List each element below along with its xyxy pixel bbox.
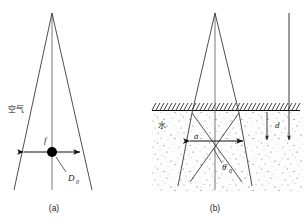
panel-b-depth-label: d bbox=[275, 120, 280, 130]
panel-a-medium-label: 空气 bbox=[8, 104, 24, 114]
panel-a-caption: (a) bbox=[49, 203, 60, 213]
schematic-svg: 空气 f D 0 (a) bbox=[0, 0, 304, 224]
panel-a-beam-right bbox=[52, 13, 92, 190]
panel-b-medium-label: 水 bbox=[158, 120, 166, 130]
panel-a-group: 空气 f D 0 (a) bbox=[8, 13, 92, 213]
panel-a-aperture-subscript: 0 bbox=[76, 179, 79, 185]
panel-a-focus-label: f bbox=[44, 135, 48, 145]
panel-a-beam-left bbox=[14, 13, 52, 190]
panel-b-caption: (b) bbox=[210, 203, 221, 213]
figure-root: 空气 f D 0 (a) bbox=[0, 0, 304, 224]
panel-a-focus-point bbox=[47, 147, 57, 157]
panel-b-width-label: a bbox=[194, 131, 199, 141]
panel-b-surface-hatching bbox=[152, 103, 300, 110]
panel-b-medium-fill bbox=[152, 112, 304, 192]
panel-b-incident-beam-right bbox=[215, 13, 239, 113]
panel-a-aperture-label: D bbox=[67, 173, 75, 183]
panel-b-angle-label: θ bbox=[222, 162, 227, 172]
panel-b-incident-beam-left bbox=[192, 13, 215, 113]
panel-b-group: 水 a θ 0 d (b) bbox=[152, 13, 304, 213]
panel-b-angle-subscript: 0 bbox=[229, 168, 232, 174]
panel-a-aperture-leader bbox=[56, 157, 66, 172]
